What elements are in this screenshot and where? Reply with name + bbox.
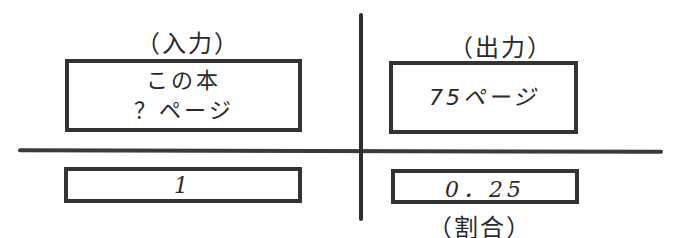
output-top-line-1: 75ページ [429,83,538,113]
vertical-divider [359,13,363,221]
input-header-label: （入力） [136,24,240,59]
input-bottom-box: 1 [64,167,302,203]
input-bottom-value: 1 [174,173,192,198]
output-bottom-value: 0．25 [445,171,525,203]
output-bottom-box: 0．25 [391,169,579,204]
output-top-box: 75ページ [389,61,578,134]
input-top-line-2: ？ページ [134,96,234,126]
ratio-footer-label: （割合） [428,208,532,238]
output-header-label: （出力） [449,28,553,63]
input-top-box: この本 ？ページ [65,59,302,132]
horizontal-divider [18,148,663,154]
input-top-line-1: この本 [146,66,221,96]
